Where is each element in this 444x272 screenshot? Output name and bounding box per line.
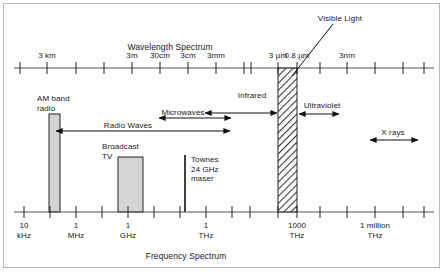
wavelength-axis-tick-label-13: 3nm [339,51,355,61]
wavelength-axis-tick-label-11: 0.8 µm [284,51,309,61]
frequency-axis-tick-label-0: 10kHz [17,221,31,240]
wavelength-axis-title: Wavelength Spectrum [127,43,212,53]
callout-visible-light-label: Visible Light [318,14,362,24]
range-infrared-label: Infrared [238,91,266,101]
frequency-axis-tick-label-4: 1GHz [120,221,136,240]
range-ultraviolet-label: Ultraviolet [304,101,341,111]
band-0-label: AM bandradio [37,94,70,113]
band-1-label: BroadcastTV [102,142,139,161]
band-0-rect [49,114,60,212]
wavelength-axis-tick-label-1: 3 km [38,51,56,61]
band-shapes [49,68,297,212]
range-microwaves-label: Microwaves [161,108,204,118]
electromagnetic-spectrum-figure: AM bandradioBroadcastTVTownes24 GHzmaser… [0,0,444,272]
range-radio-waves-label: Radio Waves [104,121,152,131]
frequency-axis-tick-label-14: 1 millionTHz [360,221,390,240]
frequency-axis-tick-label-2: 1MHz [68,221,85,240]
band-3-rect [278,68,297,212]
frequency-axis-title: Frequency Spectrum [146,252,227,262]
band-2-label: Townes24 GHzmaser [191,155,219,184]
range-x-rays-label: X rays [381,128,404,138]
band-1-rect [118,157,143,212]
frequency-axis-tick-label-11: 1000THz [288,221,306,240]
frequency-axis-tick-label-7: 1THz [199,221,214,240]
